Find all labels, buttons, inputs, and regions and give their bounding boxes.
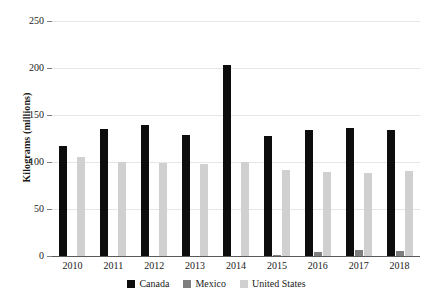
bar-group <box>379 21 420 256</box>
bar-group <box>338 21 379 256</box>
bar <box>77 157 85 256</box>
bar-groups <box>52 21 420 256</box>
legend-item[interactable]: Mexico <box>183 278 226 289</box>
chart-legend: CanadaMexicoUnited States <box>0 278 433 289</box>
bar-group <box>175 21 216 256</box>
bar <box>100 129 108 256</box>
y-tick-label: 200 <box>4 63 44 73</box>
bar-group <box>134 21 175 256</box>
bar <box>314 252 322 256</box>
x-tick-label: 2014 <box>216 259 257 273</box>
y-tick-mark <box>47 256 52 257</box>
x-tick-label: 2012 <box>134 259 175 273</box>
legend-item[interactable]: United States <box>240 278 306 289</box>
bar <box>305 130 313 256</box>
bar-group <box>93 21 134 256</box>
legend-item[interactable]: Canada <box>127 278 169 289</box>
bar <box>346 128 354 256</box>
bar <box>405 171 413 256</box>
bar <box>118 162 126 256</box>
y-tick-label: 0 <box>4 251 44 261</box>
bar <box>387 130 395 256</box>
bar <box>141 125 149 256</box>
x-axis-tick-labels: 201020112012201320142015201620172018 <box>52 259 420 273</box>
x-tick-label: 2010 <box>52 259 93 273</box>
bar <box>200 164 208 256</box>
y-axis-title: Kilograms (millions) <box>18 20 36 255</box>
legend-swatch-icon <box>183 280 191 288</box>
legend-swatch-icon <box>240 280 248 288</box>
x-tick-label: 2016 <box>297 259 338 273</box>
bar <box>241 162 249 256</box>
legend-label: Mexico <box>195 278 226 289</box>
bar <box>364 173 372 256</box>
x-tick-label: 2015 <box>256 259 297 273</box>
legend-label: United States <box>252 278 306 289</box>
legend-label: Canada <box>139 278 169 289</box>
bar <box>323 172 331 256</box>
y-tick-label: 50 <box>4 204 44 214</box>
legend-swatch-icon <box>127 280 135 288</box>
x-tick-label: 2011 <box>93 259 134 273</box>
bar <box>59 146 67 256</box>
y-tick-label: 250 <box>4 16 44 26</box>
bar-chart: Kilograms (millions) 050100150200250 201… <box>0 0 433 302</box>
y-tick-label: 150 <box>4 110 44 120</box>
bar <box>182 135 190 256</box>
bar-group <box>297 21 338 256</box>
bar <box>273 255 281 256</box>
x-tick-label: 2013 <box>175 259 216 273</box>
bar <box>282 170 290 256</box>
bar-group <box>216 21 257 256</box>
x-tick-label: 2018 <box>379 259 420 273</box>
bar <box>159 163 167 256</box>
bar <box>355 250 363 256</box>
x-tick-label: 2017 <box>338 259 379 273</box>
bar <box>396 251 404 256</box>
bar <box>223 65 231 256</box>
bar-group <box>52 21 93 256</box>
axis-baseline <box>52 256 420 257</box>
bar-group <box>256 21 297 256</box>
bar <box>264 136 272 256</box>
y-tick-label: 100 <box>4 157 44 167</box>
